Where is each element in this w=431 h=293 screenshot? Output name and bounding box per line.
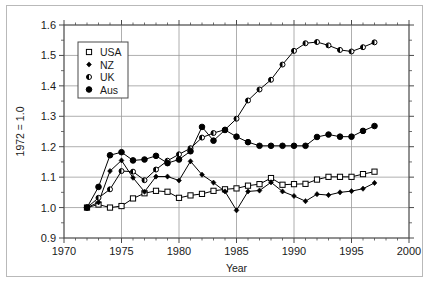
data-point-usa xyxy=(234,186,239,191)
data-point-nz xyxy=(372,180,377,185)
legend-label-uk: UK xyxy=(100,71,115,83)
data-point-usa xyxy=(303,181,308,186)
data-point-usa xyxy=(153,188,158,193)
x-tick-label: 1975 xyxy=(109,245,133,257)
data-point-nz xyxy=(315,192,320,197)
series-nz xyxy=(85,158,377,213)
data-point-usa xyxy=(165,189,170,194)
data-point-uk xyxy=(200,135,205,140)
data-point-uk xyxy=(119,169,124,174)
data-point-uk xyxy=(211,131,216,136)
legend-marker-aus xyxy=(86,87,92,93)
data-point-aus xyxy=(107,152,113,158)
data-point-usa xyxy=(326,174,331,179)
data-point-usa xyxy=(314,177,319,182)
data-point-aus xyxy=(119,149,125,155)
data-point-uk xyxy=(246,98,251,103)
data-point-nz xyxy=(338,190,343,195)
data-point-aus xyxy=(326,132,332,138)
data-point-nz xyxy=(326,192,331,197)
legend-label-aus: Aus xyxy=(100,84,118,96)
data-point-aus xyxy=(372,123,378,129)
x-tick-label: 1970 xyxy=(52,245,76,257)
y-tick-label: 1.1 xyxy=(41,171,56,183)
x-axis-title: Year xyxy=(226,262,248,274)
plot-container: 0.91.01.11.21.31.41.51.61970197519801985… xyxy=(0,0,431,293)
series-line-aus xyxy=(87,126,375,208)
data-point-uk xyxy=(338,47,343,52)
data-point-aus xyxy=(176,157,182,163)
figure: 0.91.01.11.21.31.41.51.61970197519801985… xyxy=(0,0,431,293)
data-point-uk xyxy=(96,195,101,200)
data-point-usa xyxy=(360,172,365,177)
data-point-aus xyxy=(257,143,263,149)
data-point-aus xyxy=(222,127,228,133)
data-point-nz xyxy=(177,178,182,183)
data-point-uk xyxy=(349,49,354,54)
x-tick-label: 1980 xyxy=(167,245,191,257)
data-point-usa xyxy=(280,182,285,187)
data-point-usa xyxy=(211,188,216,193)
data-point-uk xyxy=(326,43,331,48)
data-point-aus xyxy=(360,128,366,134)
y-tick-label: 1.2 xyxy=(41,141,56,153)
data-point-usa xyxy=(349,174,354,179)
data-point-aus xyxy=(211,138,217,144)
y-tick-label: 1.3 xyxy=(41,110,56,122)
data-point-uk xyxy=(142,178,147,183)
data-point-aus xyxy=(153,153,159,159)
data-point-usa xyxy=(337,174,342,179)
data-point-usa xyxy=(291,182,296,187)
data-point-uk xyxy=(269,77,274,82)
data-point-usa xyxy=(119,203,124,208)
data-point-usa xyxy=(188,193,193,198)
data-point-aus xyxy=(280,143,286,149)
data-point-uk xyxy=(177,152,182,157)
data-point-aus xyxy=(314,134,320,140)
legend-label-nz: NZ xyxy=(100,59,115,71)
x-tick-label: 1985 xyxy=(224,245,248,257)
legend-marker-uk xyxy=(87,75,92,80)
data-point-uk xyxy=(292,48,297,53)
data-point-aus xyxy=(268,143,274,149)
line-chart: 0.91.01.11.21.31.41.51.61970197519801985… xyxy=(0,0,431,293)
data-point-uk xyxy=(234,116,239,121)
series-line-uk xyxy=(87,42,375,208)
data-point-aus xyxy=(188,148,194,154)
data-point-uk xyxy=(108,187,113,192)
data-point-nz xyxy=(349,189,354,194)
data-point-nz xyxy=(361,186,366,191)
series-aus xyxy=(84,123,377,210)
data-point-usa xyxy=(176,195,181,200)
data-point-nz xyxy=(257,188,262,193)
y-tick-label: 1.5 xyxy=(41,49,56,61)
data-point-aus xyxy=(291,143,297,149)
data-point-usa xyxy=(199,191,204,196)
data-point-aus xyxy=(234,134,240,140)
data-point-uk xyxy=(361,45,366,50)
data-point-nz xyxy=(165,174,170,179)
data-point-aus xyxy=(142,157,148,163)
y-axis-title: 1972 = 1.0 xyxy=(14,106,26,156)
data-point-uk xyxy=(280,62,285,67)
series-usa xyxy=(84,169,377,210)
y-tick-label: 0.9 xyxy=(41,232,56,244)
data-point-aus xyxy=(349,134,355,140)
legend-label-usa: USA xyxy=(100,46,122,58)
legend-marker-usa xyxy=(86,49,91,54)
x-tick-label: 1995 xyxy=(339,245,363,257)
data-point-nz xyxy=(292,193,297,198)
data-point-usa xyxy=(107,205,112,210)
data-point-usa xyxy=(245,183,250,188)
data-point-aus xyxy=(337,134,343,140)
legend[interactable]: USANZUKAus xyxy=(78,42,128,98)
data-point-aus xyxy=(96,184,102,190)
data-point-uk xyxy=(372,40,377,45)
data-point-uk xyxy=(303,41,308,46)
data-point-uk xyxy=(131,169,136,174)
data-point-uk xyxy=(154,167,159,172)
data-point-aus xyxy=(199,124,205,130)
x-tick-label: 1990 xyxy=(282,245,306,257)
data-point-aus xyxy=(245,139,251,145)
data-point-aus xyxy=(130,158,136,164)
